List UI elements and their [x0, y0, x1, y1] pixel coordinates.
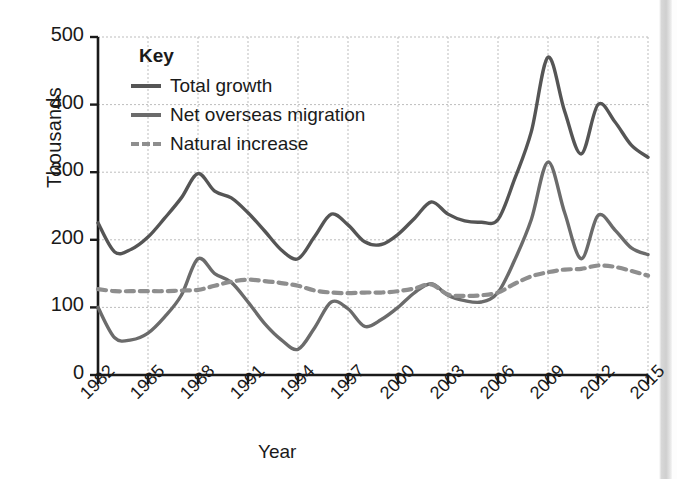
legend-item-natural-increase: Natural increase: [131, 129, 365, 158]
legend-item-label: Total growth: [170, 76, 272, 95]
dashed-line-swatch-icon: [131, 142, 161, 146]
x-axis-label: Year: [258, 441, 296, 463]
line-swatch-icon: [131, 113, 161, 117]
y-axis-tick-label: 0: [14, 361, 84, 384]
legend-item-total-growth: Total growth: [131, 71, 365, 100]
y-axis-label: Thousands: [43, 58, 66, 218]
legend: Key Total growth Net overseas migration …: [131, 45, 365, 158]
y-axis-tick-label: 200: [14, 226, 84, 249]
chart-figure: Thousands Year 0100200300400500 19821985…: [0, 0, 677, 479]
series-line: [98, 265, 648, 296]
y-axis-tick-label: 300: [14, 158, 84, 181]
legend-item-label: Net overseas migration: [170, 105, 365, 124]
legend-item-net-overseas-migration: Net overseas migration: [131, 100, 365, 129]
y-axis-tick-label: 500: [14, 23, 84, 46]
legend-item-label: Natural increase: [170, 134, 308, 153]
series-line: [98, 162, 648, 350]
y-axis-tick-label: 400: [14, 91, 84, 114]
y-axis-tick-label: 100: [14, 293, 84, 316]
legend-title: Key: [139, 45, 365, 67]
line-swatch-icon: [131, 84, 161, 88]
